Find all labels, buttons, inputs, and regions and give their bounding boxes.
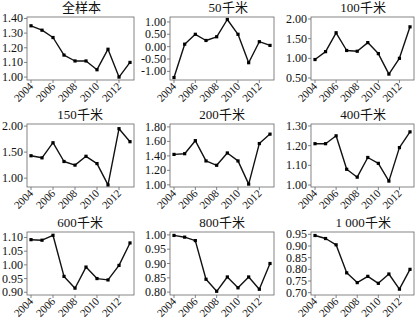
data-point-marker	[356, 281, 359, 284]
data-point-marker	[236, 286, 239, 289]
x-tick-label: 2004	[11, 187, 35, 211]
data-point-marker	[194, 139, 197, 142]
y-tick-label: 0.95	[145, 242, 166, 256]
data-point-marker	[84, 59, 87, 62]
data-point-marker	[247, 275, 250, 278]
y-tick-label: 1.00	[2, 171, 23, 185]
data-point-marker	[73, 287, 76, 290]
x-tick-label: 2008	[55, 80, 79, 104]
data-point-marker	[40, 156, 43, 159]
chart-panel-400km: 400千米 1.001.101.201.30200420062008201020…	[280, 108, 418, 218]
chart-panel-50km: 50千米 -1.00-0.500.000.501.002004200620082…	[140, 0, 280, 110]
x-tick-label: 2006	[176, 295, 200, 319]
data-line	[315, 132, 410, 181]
x-tick-label: 2008	[338, 295, 362, 319]
data-point-marker	[73, 59, 76, 62]
data-point-marker	[204, 159, 207, 162]
chart-panel-800km: 800千米 0.800.850.900.951.0020042006200820…	[140, 216, 280, 326]
data-point-marker	[236, 33, 239, 36]
y-tick-label: 1.30	[286, 119, 307, 133]
y-tick-label: 1.10	[2, 55, 23, 69]
x-tick-label: 2008	[55, 187, 79, 211]
data-point-marker	[62, 275, 65, 278]
data-point-marker	[356, 176, 359, 179]
y-tick-label: -0.50	[141, 52, 166, 66]
data-point-marker	[215, 290, 218, 293]
data-point-marker	[335, 243, 338, 246]
y-tick-label: 1.00	[2, 258, 23, 272]
data-point-marker	[29, 154, 32, 157]
data-point-marker	[172, 153, 175, 156]
chart-panel-1000km: 1 000千米 0.700.750.800.850.900.9520042006…	[280, 216, 418, 326]
x-tick-label: 2012	[99, 187, 123, 211]
data-point-marker	[84, 265, 87, 268]
chart-panel-150km: 150千米 1.001.502.0020042006200820102012	[0, 108, 140, 218]
x-tick-label: 2006	[176, 187, 200, 211]
x-tick-label: 2012	[240, 295, 264, 319]
y-tick-label: 1.40	[2, 11, 23, 25]
data-point-marker	[226, 151, 229, 154]
small-multiples-figure: 全样本 1.001.101.201.301.402004200620082010…	[0, 0, 418, 329]
y-tick-label: 0.50	[145, 27, 166, 41]
data-point-marker	[172, 234, 175, 237]
plot-frame	[27, 17, 134, 80]
data-point-marker	[62, 160, 65, 163]
data-point-marker	[106, 278, 109, 281]
data-point-marker	[236, 159, 239, 162]
data-line	[174, 134, 270, 184]
data-point-marker	[345, 49, 348, 52]
x-tick-label: 2012	[380, 295, 404, 319]
data-point-marker	[398, 146, 401, 149]
y-tick-label: 1.20	[286, 139, 307, 153]
data-point-marker	[398, 288, 401, 291]
data-point-marker	[366, 41, 369, 44]
x-tick-label: 2008	[55, 295, 79, 319]
y-tick-label: 0.50	[286, 71, 307, 85]
y-tick-label: 1.00	[145, 178, 166, 192]
plot-frame	[170, 232, 274, 295]
line-chart-plot: 1.001.502.0020042006200820102012	[0, 108, 140, 218]
y-tick-label: 1.20	[2, 41, 23, 55]
data-point-marker	[258, 40, 261, 43]
line-chart-plot: 1.001.101.201.301.4020042006200820102012	[0, 0, 140, 110]
data-point-marker	[387, 272, 390, 275]
data-point-marker	[408, 25, 411, 28]
data-point-marker	[40, 239, 43, 242]
data-point-marker	[335, 134, 338, 137]
data-point-marker	[117, 264, 120, 267]
data-point-marker	[215, 164, 218, 167]
plot-frame	[311, 124, 414, 187]
x-tick-label: 2006	[316, 187, 340, 211]
data-point-marker	[366, 275, 369, 278]
data-point-marker	[345, 168, 348, 171]
line-chart-plot: -1.00-0.500.000.501.00200420062008201020…	[140, 0, 280, 110]
data-line	[174, 20, 270, 78]
chart-panel-100km: 100千米 0.501.001.502.00200420062008201020…	[280, 0, 418, 110]
y-tick-label: 1.05	[2, 244, 23, 258]
data-point-marker	[117, 127, 120, 130]
y-tick-label: 1.40	[145, 149, 166, 163]
data-point-marker	[377, 162, 380, 165]
y-tick-label: 0.90	[145, 257, 166, 271]
data-point-marker	[356, 50, 359, 53]
x-tick-label: 2010	[359, 187, 383, 211]
y-tick-label: 1.10	[2, 230, 23, 244]
x-tick-label: 2010	[218, 187, 242, 211]
data-point-marker	[313, 234, 316, 237]
data-point-marker	[324, 237, 327, 240]
x-tick-label: 2006	[33, 187, 57, 211]
line-chart-plot: 0.800.850.900.951.0020042006200820102012	[140, 216, 280, 326]
x-tick-label: 2008	[197, 80, 221, 104]
x-tick-label: 2012	[99, 295, 123, 319]
data-point-marker	[268, 262, 271, 265]
plot-frame	[170, 124, 274, 187]
x-tick-label: 2010	[218, 295, 242, 319]
data-point-marker	[51, 141, 54, 144]
data-point-marker	[95, 68, 98, 71]
data-point-marker	[51, 36, 54, 39]
x-tick-label: 2012	[99, 80, 123, 104]
plot-frame	[311, 17, 414, 80]
data-point-marker	[366, 156, 369, 159]
y-tick-label: 1.00	[2, 70, 23, 84]
data-line	[315, 27, 410, 74]
